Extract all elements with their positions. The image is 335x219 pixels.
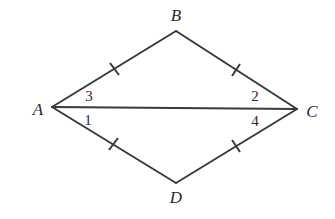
vertex-label-b: B <box>171 6 182 25</box>
diagram-canvas: A B C D 3 1 2 4 <box>0 0 335 219</box>
vertex-label-c: C <box>306 102 318 121</box>
tick-mark-ab <box>110 63 119 75</box>
tick-mark-da <box>109 138 118 150</box>
vertex-label-d: D <box>169 188 183 207</box>
angle-label-4: 4 <box>251 113 259 129</box>
vertex-label-a: A <box>32 100 44 119</box>
angle-label-1: 1 <box>84 112 92 128</box>
angle-label-2: 2 <box>251 88 259 104</box>
diagonal-ac <box>52 107 297 109</box>
tick-mark-cd <box>232 140 240 152</box>
tick-mark-bc <box>232 64 240 76</box>
angle-label-3: 3 <box>85 88 93 104</box>
